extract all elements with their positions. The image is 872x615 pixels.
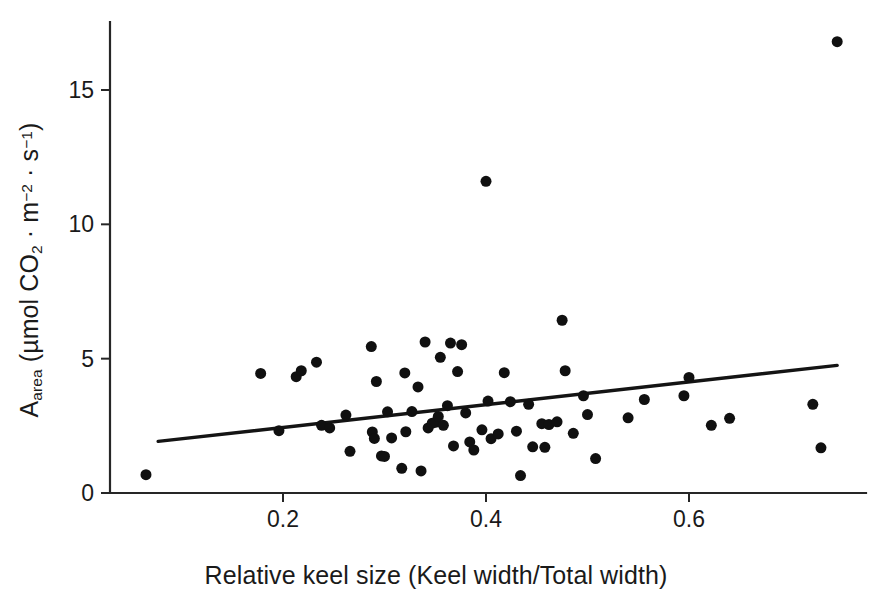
data-point (140, 469, 151, 480)
y-tick-label: 10 (68, 211, 94, 237)
data-point (406, 406, 417, 417)
data-point (442, 400, 453, 411)
data-point (416, 465, 427, 476)
data-point (420, 337, 431, 348)
data-point (344, 446, 355, 457)
data-point (515, 470, 526, 481)
data-point (366, 341, 377, 352)
data-point (568, 428, 579, 439)
data-point (396, 463, 407, 474)
data-point (311, 357, 322, 368)
data-point (476, 424, 487, 435)
y-axis-label-symbol: A (15, 401, 43, 418)
data-point (511, 426, 522, 437)
data-point (468, 445, 479, 456)
data-point (382, 406, 393, 417)
data-point (832, 36, 843, 47)
data-point (438, 420, 449, 431)
data-point (371, 376, 382, 387)
x-axis-label: Relative keel size (Keel width/Total wid… (0, 561, 872, 590)
y-axis-label-unit-mid: · m (15, 202, 43, 245)
data-point (527, 441, 538, 452)
data-point (590, 453, 601, 464)
data-point (369, 433, 380, 444)
data-point (340, 410, 351, 421)
data-point (273, 425, 284, 436)
y-tick-label: 5 (81, 346, 94, 372)
data-point (448, 440, 459, 451)
x-tick-label: 0.2 (267, 506, 299, 532)
axis-spine (110, 22, 866, 493)
y-axis-label: Aarea (µmol CO2 · m−2 · s−1) (15, 122, 46, 417)
data-point (499, 367, 510, 378)
data-point (412, 381, 423, 392)
plot-canvas: 0.20.40.6051015 (0, 0, 872, 615)
x-tick-label: 0.4 (470, 506, 502, 532)
data-point (684, 372, 695, 383)
data-points (140, 36, 842, 481)
data-point (560, 365, 571, 376)
data-point (493, 428, 504, 439)
data-point (435, 352, 446, 363)
x-tick-label: 0.6 (673, 506, 705, 532)
data-point (623, 412, 634, 423)
y-axis-label-container: Aarea (µmol CO2 · m−2 · s−1) (15, 20, 55, 520)
data-point (255, 368, 266, 379)
data-point (552, 416, 563, 427)
data-point (324, 422, 335, 433)
data-point (724, 413, 735, 424)
scatter-figure: 0.20.40.6051015 Aarea (µmol CO2 · m−2 · … (0, 0, 872, 615)
y-axis-label-unit-close: ) (15, 122, 43, 130)
data-point (452, 366, 463, 377)
data-point (578, 390, 589, 401)
data-point (456, 339, 467, 350)
data-point (807, 399, 818, 410)
data-point (445, 338, 456, 349)
y-tick-label: 15 (68, 77, 94, 103)
data-point (639, 394, 650, 405)
data-point (539, 442, 550, 453)
y-tick-label: 0 (81, 480, 94, 506)
y-axis-label-subscript: area (28, 369, 45, 400)
axis-tick-labels: 0.20.40.6051015 (68, 77, 705, 532)
y-axis-label-s-exponent: −1 (18, 131, 35, 149)
data-point (523, 399, 534, 410)
axes (110, 22, 866, 493)
y-axis-label-m-exponent: −2 (18, 184, 35, 202)
y-axis-label-unit-mid2: · s (15, 149, 43, 184)
data-point (386, 432, 397, 443)
data-point (815, 442, 826, 453)
data-point (706, 420, 717, 431)
data-point (379, 451, 390, 462)
data-point (557, 315, 568, 326)
data-point (399, 367, 410, 378)
data-point (296, 365, 307, 376)
data-point (460, 407, 471, 418)
data-point (400, 426, 411, 437)
y-axis-label-co2-subscript: 2 (28, 245, 45, 254)
data-point (481, 176, 492, 187)
data-point (582, 409, 593, 420)
data-point (483, 396, 494, 407)
data-point (678, 390, 689, 401)
y-axis-label-unit-open: (µmol CO (15, 254, 43, 369)
data-point (505, 396, 516, 407)
